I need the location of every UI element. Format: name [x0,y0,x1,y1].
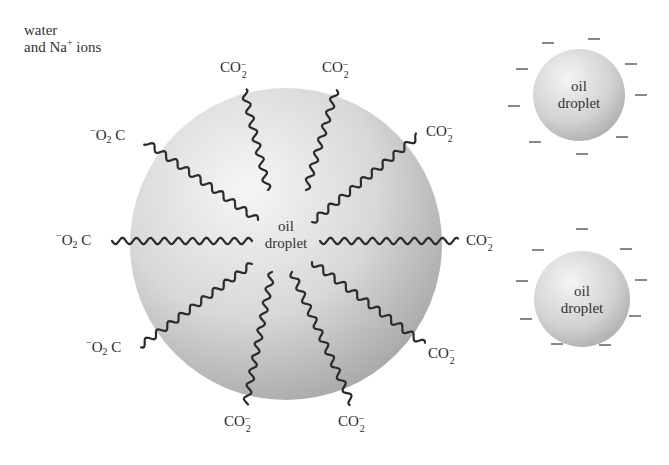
carboxylate-label: CO−2 [220,60,249,75]
carboxylate-label: CO−2 [338,414,367,429]
carboxylate-label: CO−2 [428,346,457,361]
carboxylate-label-reversed: −O2 C [90,128,125,143]
carboxylate-label-reversed: −O2 C [56,233,91,248]
carboxylate-label: CO−2 [224,414,253,429]
small-droplet-top-label: oil droplet [539,78,619,112]
small-droplet-bottom-label: oil droplet [542,283,622,317]
carboxylate-label-reversed: −O2 C [86,340,121,355]
caption-line-2: and Na+ ions [24,39,101,56]
large-droplet-label: oil droplet [246,218,326,252]
carboxylate-label: CO−2 [426,124,455,139]
caption-line-1: water [24,22,101,39]
carboxylate-label: CO−2 [466,233,495,248]
carboxylate-label: CO−2 [322,60,351,75]
water-ions-caption: water and Na+ ions [24,22,101,56]
